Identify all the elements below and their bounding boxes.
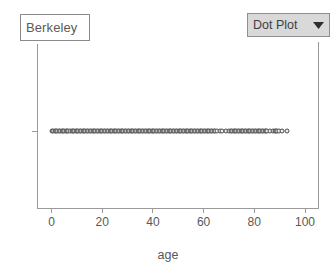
x-tick-0 [51,208,52,213]
dot-plot-points [0,0,336,274]
x-tick-label-0: 0 [48,215,55,229]
x-tick-label-80: 80 [248,215,261,229]
x-tick-100 [305,208,306,213]
x-tick-60 [203,208,204,213]
y-axis-tick [32,131,37,132]
y-axis-line [37,44,38,208]
x-axis-title: age [0,248,336,262]
x-tick-20 [102,208,103,213]
x-tick-80 [254,208,255,213]
data-point[interactable] [285,129,290,134]
x-tick-label-100: 100 [295,215,315,229]
chevron-down-icon [313,22,324,29]
x-tick-label-40: 40 [146,215,159,229]
collection-label-box[interactable]: Berkeley [20,14,90,41]
x-tick-label-20: 20 [96,215,109,229]
dot-plot-window: Berkeley Dot Plot 020406080100 age [0,0,336,274]
x-axis-line [37,208,319,209]
plot-type-dropdown[interactable]: Dot Plot [247,13,330,37]
x-tick-label-60: 60 [197,215,210,229]
x-tick-40 [152,208,153,213]
right-frame-line [318,42,319,208]
plot-type-label: Dot Plot [253,18,309,32]
collection-label-text: Berkeley [26,20,77,35]
